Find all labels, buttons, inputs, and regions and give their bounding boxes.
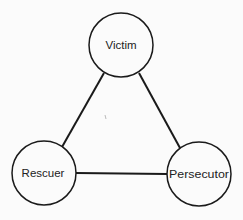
drama-triangle-diagram: Victim Rescuer Persecutor xyxy=(0,0,243,220)
node-victim-label: Victim xyxy=(105,39,136,51)
edge-rescuer-persecutor xyxy=(76,173,167,174)
stray-mark xyxy=(105,115,106,119)
diagram-svg: Victim Rescuer Persecutor xyxy=(0,0,243,220)
node-persecutor-label: Persecutor xyxy=(169,168,229,180)
edge-victim-persecutor xyxy=(139,73,180,148)
node-rescuer-label: Rescuer xyxy=(22,167,65,179)
node-victim: Victim xyxy=(89,13,153,77)
node-persecutor: Persecutor xyxy=(167,142,231,206)
node-rescuer: Rescuer xyxy=(12,141,76,205)
edge-victim-rescuer xyxy=(62,73,104,147)
